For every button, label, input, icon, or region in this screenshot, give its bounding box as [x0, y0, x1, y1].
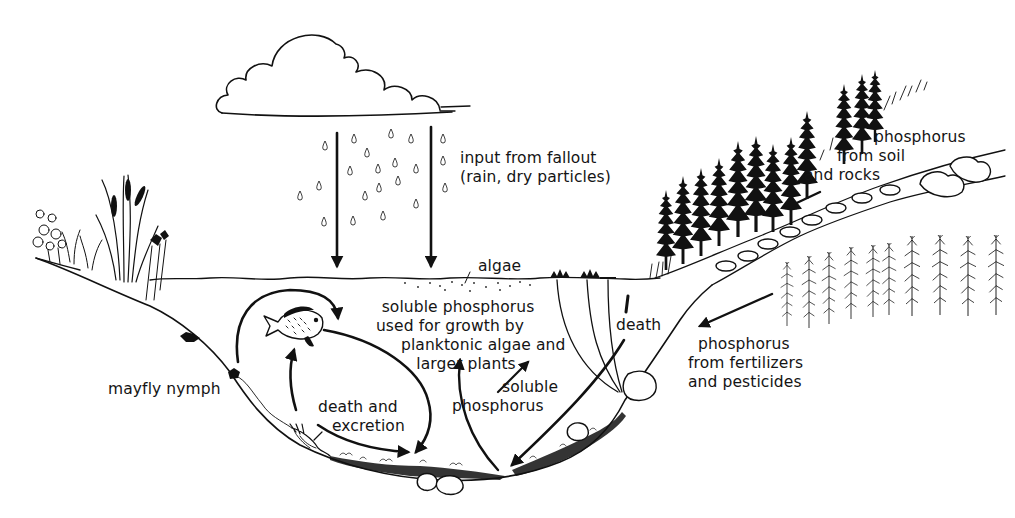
cattails-icon [62, 175, 158, 282]
rainfall-arrows [337, 127, 431, 266]
raindrops [298, 129, 448, 226]
death-excretion-line2: excretion [318, 417, 405, 436]
fertilizers-label: phosphorus from fertilizers and pesticid… [688, 335, 803, 392]
algae-label: algae [478, 257, 521, 276]
algae-particles [404, 281, 531, 292]
soil-label-line1: phosphorus [858, 128, 968, 147]
fertilizers-label-line3: and pesticides [688, 373, 803, 392]
fallout-label: input from fallout (rain, dry particles) [460, 149, 611, 187]
soluble-growth-label: soluble phosphorus used for growth by pl… [373, 298, 563, 374]
sunfish-icon [264, 307, 323, 347]
soluble-growth-line2: used for growth by [337, 317, 563, 336]
fertilizers-label-line1: phosphorus [688, 335, 803, 354]
soluble-growth-line1: soluble phosphorus [353, 298, 563, 317]
soluble-label-line1: soluble [452, 378, 558, 397]
soluble-growth-line4: larger plants [369, 355, 563, 374]
soil-rocks-label: phosphorus from soil and rocks [858, 128, 968, 185]
cornfield [781, 235, 1004, 328]
fallout-label-line1: input from fallout [460, 149, 611, 168]
soluble-label-line2: phosphorus [452, 397, 558, 416]
shore-flowers-icon [33, 210, 169, 300]
soluble-growth-line3: planktonic algae and [401, 336, 563, 355]
left-shore [36, 258, 80, 270]
phosphorus-cycle-diagram: input from fallout (rain, dry particles)… [0, 0, 1015, 518]
fallout-label-line2: (rain, dry particles) [460, 168, 611, 187]
soluble-phosphorus-label: soluble phosphorus [452, 378, 558, 416]
death-excretion-label: death and excretion [318, 398, 405, 436]
mayfly-nymph-label: mayfly nymph [108, 380, 221, 399]
fertilizers-label-line2: from fertilizers [688, 354, 803, 373]
soil-label-line3: and rocks [804, 166, 968, 185]
death-label: death [616, 316, 661, 335]
cloud-icon [216, 35, 470, 116]
death-excretion-line1: death and [318, 398, 405, 417]
soil-label-line2: from soil [837, 147, 968, 166]
